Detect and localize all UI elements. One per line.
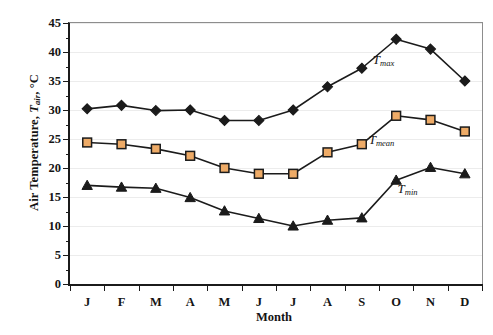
x-axis-tick (242, 284, 243, 291)
y-axis-tick (63, 255, 70, 256)
y-axis-tick-label: 10 (49, 219, 62, 234)
y-axis-tick (63, 168, 70, 169)
x-axis-tick (448, 284, 449, 291)
x-axis-tick (173, 284, 174, 291)
series-Tmax (82, 34, 470, 125)
y-axis-tick-label: 25 (49, 132, 62, 147)
x-axis-tick-label: N (426, 295, 435, 310)
x-axis-tick (70, 284, 71, 291)
series-line (87, 39, 465, 120)
y-axis-tick-label: 20 (49, 161, 62, 176)
series-layer (70, 23, 482, 284)
annotation-subscript: mean (376, 138, 394, 148)
data-point (254, 115, 264, 125)
data-point (117, 100, 127, 110)
x-axis-title: Month (68, 310, 480, 325)
x-axis-tick (482, 284, 483, 291)
x-axis-tick (310, 284, 311, 291)
series-line (87, 116, 465, 174)
x-axis-tick-label: A (323, 295, 332, 310)
y-axis-tick (63, 284, 70, 285)
x-axis-tick-label: M (219, 295, 231, 310)
y-axis-tick-label: 0 (55, 277, 61, 292)
y-axis-title-unit: , °C (27, 74, 41, 95)
y-axis-tick (63, 81, 70, 82)
data-point (426, 115, 435, 124)
y-axis-tick-label: 5 (55, 248, 61, 263)
annotation-subscript: max (380, 58, 394, 68)
y-axis-tick-label: 40 (49, 45, 62, 60)
x-axis-tick-label: S (358, 295, 365, 310)
x-axis-tick-label: J (256, 295, 262, 310)
x-axis-tick-label: M (150, 295, 162, 310)
annotation-symbol: T (373, 52, 380, 67)
y-axis-title-symbol: T (27, 105, 41, 113)
x-axis-tick (276, 284, 277, 291)
annotation-Tmax: Tmax (373, 52, 394, 68)
data-point (83, 138, 92, 147)
data-point (392, 111, 401, 120)
data-point (186, 151, 195, 160)
y-axis-tick (63, 139, 70, 140)
data-point (323, 148, 332, 157)
y-axis-title-subscript: air (32, 95, 42, 105)
data-point (185, 105, 195, 115)
x-axis-tick-label: F (118, 295, 126, 310)
annotation-subscript: min (405, 187, 418, 197)
x-axis-tick (104, 284, 105, 291)
x-axis-tick (139, 284, 140, 291)
data-point (288, 105, 298, 115)
x-axis-tick-label: O (391, 295, 401, 310)
data-point (357, 140, 366, 149)
y-axis-tick-label: 45 (49, 16, 62, 31)
data-point (460, 127, 469, 136)
data-point (151, 144, 160, 153)
data-point (82, 104, 92, 114)
x-axis-tick (345, 284, 346, 291)
chart-figure: Air Temperature, Tair, °C 05101520253035… (0, 0, 493, 335)
y-axis-tick (63, 226, 70, 227)
series-Tmean (83, 111, 469, 178)
y-axis-tick-label: 35 (49, 74, 62, 89)
y-axis-tick-label: 30 (49, 103, 62, 118)
data-point (425, 162, 435, 171)
annotation-symbol: T (398, 181, 405, 196)
data-point (254, 169, 263, 178)
data-point (151, 106, 161, 116)
plot-area: 051015202530354045 JFMAMJJASOND TmaxTmea… (68, 22, 483, 286)
y-axis-tick (63, 52, 70, 53)
x-axis-tick-label: D (460, 295, 469, 310)
y-axis-tick-label: 15 (49, 190, 62, 205)
annotation-symbol: T (369, 132, 376, 147)
data-point (289, 169, 298, 178)
x-axis-tick-label: A (186, 295, 195, 310)
x-axis-tick-label: J (84, 295, 90, 310)
x-axis-tick (413, 284, 414, 291)
annotation-Tmin: Tmin (398, 181, 418, 197)
x-axis-tick (207, 284, 208, 291)
y-axis-title: Air Temperature, Tair, °C (27, 23, 42, 263)
data-point (117, 140, 126, 149)
x-axis-tick (379, 284, 380, 291)
y-axis-title-text: Air Temperature, (27, 116, 41, 211)
data-point (220, 164, 229, 173)
annotation-Tmean: Tmean (369, 132, 395, 148)
y-axis-tick (63, 23, 70, 24)
x-axis-tick-label: J (290, 295, 296, 310)
y-axis-tick (63, 197, 70, 198)
y-axis-tick (63, 110, 70, 111)
data-point (220, 115, 230, 125)
data-point (323, 82, 333, 92)
